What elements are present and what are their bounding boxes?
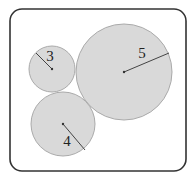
center-point-large [123,71,125,73]
radius-label-medium: 4 [63,133,71,149]
radius-label-small: 3 [46,48,54,64]
center-point-medium [62,123,64,125]
tangent-circles-diagram: 3 5 4 [0,0,196,178]
center-point-small [51,68,53,70]
circle-large: 5 [76,24,172,120]
radius-label-large: 5 [138,45,146,61]
circle-small: 3 [29,46,75,92]
circle-medium: 4 [31,92,95,156]
